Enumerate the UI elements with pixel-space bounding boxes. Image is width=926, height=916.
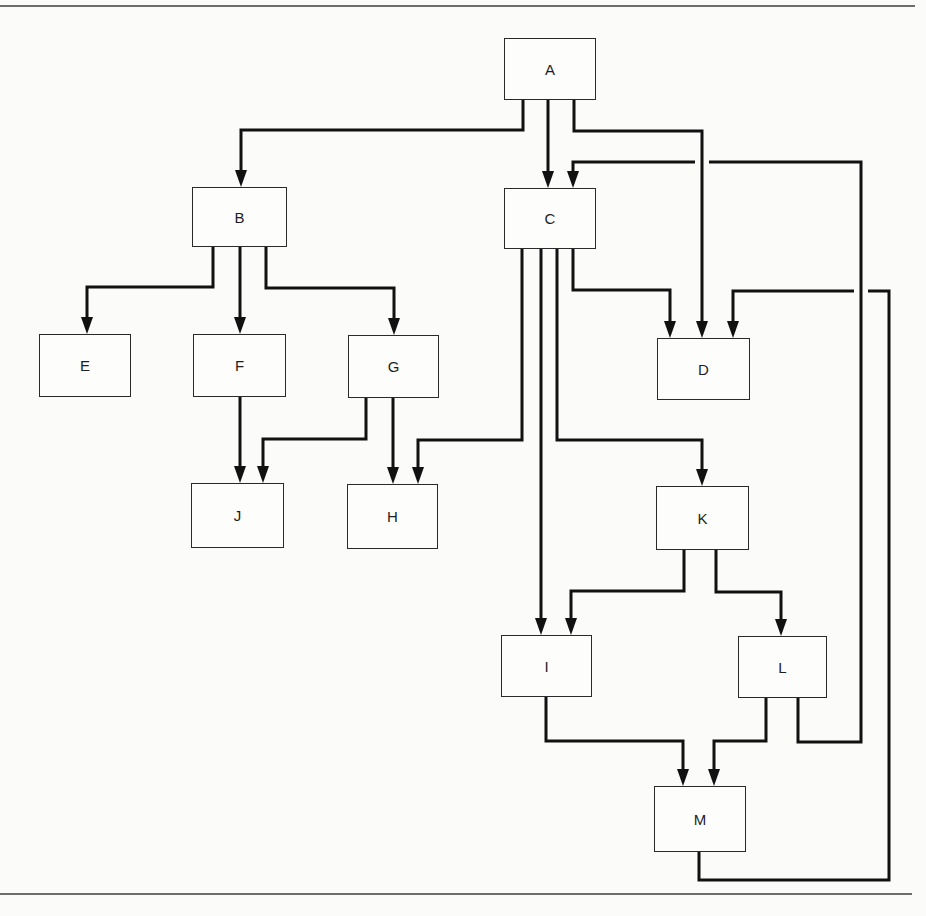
node-label: C bbox=[545, 210, 556, 227]
arrowhead-icon bbox=[565, 618, 577, 635]
edge-b-to-e bbox=[81, 247, 213, 334]
node-a: A bbox=[504, 38, 596, 100]
node-label: I bbox=[544, 658, 548, 675]
arrowhead-icon bbox=[535, 618, 547, 635]
arrowhead-icon bbox=[696, 321, 708, 338]
edge-i-to-m bbox=[546, 697, 689, 786]
edge-l-to-m bbox=[708, 698, 766, 786]
edge-f-to-j bbox=[234, 397, 246, 483]
arrowhead-icon bbox=[677, 769, 689, 786]
node-b: B bbox=[192, 187, 287, 247]
node-label: K bbox=[697, 510, 707, 527]
node-g: G bbox=[348, 335, 439, 398]
edge-c-to-i bbox=[535, 249, 547, 635]
arrowhead-icon bbox=[775, 619, 787, 636]
node-label: B bbox=[234, 209, 244, 226]
node-h: H bbox=[347, 484, 438, 549]
arrowhead-icon bbox=[257, 466, 269, 483]
arrowhead-icon bbox=[567, 171, 579, 188]
edge-g-to-j bbox=[257, 398, 366, 483]
edge-b-to-f bbox=[234, 247, 246, 334]
edge-layer bbox=[0, 0, 926, 916]
node-label: G bbox=[388, 358, 400, 375]
node-i: I bbox=[501, 635, 592, 697]
node-label: M bbox=[694, 811, 707, 828]
arrowhead-icon bbox=[234, 317, 246, 334]
node-d: D bbox=[657, 338, 750, 400]
node-label: E bbox=[80, 357, 90, 374]
edge-a-to-b bbox=[235, 100, 523, 187]
node-c: C bbox=[504, 188, 596, 249]
node-m: M bbox=[654, 786, 746, 852]
edge-g-to-h bbox=[387, 398, 399, 484]
node-j: J bbox=[191, 483, 284, 548]
edge-a-to-c bbox=[542, 100, 554, 188]
edge-b-to-g bbox=[266, 247, 400, 335]
arrowhead-icon bbox=[235, 170, 247, 187]
node-f: F bbox=[193, 334, 286, 397]
node-label: A bbox=[545, 61, 555, 78]
arrowhead-icon bbox=[727, 321, 739, 338]
arrowhead-icon bbox=[387, 467, 399, 484]
arrowhead-icon bbox=[388, 318, 400, 335]
node-label: L bbox=[778, 659, 786, 676]
edge-k-to-l bbox=[716, 550, 787, 636]
node-label: F bbox=[235, 357, 244, 374]
node-l: L bbox=[738, 636, 827, 698]
arrowhead-icon bbox=[696, 469, 708, 486]
node-k: K bbox=[656, 486, 749, 550]
edge-k-to-i bbox=[565, 550, 684, 635]
arrowhead-icon bbox=[412, 467, 424, 484]
node-label: J bbox=[234, 507, 242, 524]
arrowhead-icon bbox=[708, 769, 720, 786]
arrowhead-icon bbox=[234, 466, 246, 483]
arrowhead-icon bbox=[664, 321, 676, 338]
node-label: H bbox=[387, 508, 398, 525]
node-label: D bbox=[698, 361, 709, 378]
node-e: E bbox=[39, 334, 131, 397]
edge-c-to-d bbox=[573, 249, 676, 338]
arrowhead-icon bbox=[542, 171, 554, 188]
arrowhead-icon bbox=[81, 317, 93, 334]
